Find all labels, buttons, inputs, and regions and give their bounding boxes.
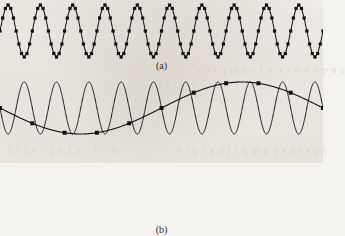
sample-marker — [230, 7, 233, 10]
sample-marker — [163, 16, 166, 19]
sample-marker — [127, 121, 131, 125]
sample-marker — [303, 16, 306, 19]
sample-marker — [171, 7, 174, 10]
sample-marker — [98, 16, 101, 19]
sample-marker — [152, 55, 155, 58]
sample-marker — [125, 42, 128, 45]
sample-marker — [238, 16, 241, 19]
panel-b: (b) — [0, 78, 323, 163]
sample-marker — [270, 16, 273, 19]
sample-marker — [300, 7, 303, 10]
sample-marker — [168, 3, 171, 6]
sample-marker — [249, 55, 252, 58]
sample-marker — [313, 55, 316, 58]
sample-marker — [281, 55, 284, 58]
panel-b-caption: (b) — [0, 224, 323, 235]
panel-a-caption: (a) — [0, 60, 323, 71]
sample-marker — [273, 29, 276, 32]
sample-marker — [44, 16, 47, 19]
sample-marker — [58, 52, 61, 55]
sample-marker — [227, 16, 230, 19]
sample-marker — [109, 16, 112, 19]
sample-marker — [173, 16, 176, 19]
sample-marker — [28, 42, 31, 45]
sample-marker — [294, 7, 297, 10]
sample-marker — [256, 81, 260, 85]
sample-marker — [141, 16, 144, 19]
sample-marker — [187, 52, 190, 55]
sample-marker — [133, 7, 136, 10]
sample-marker — [25, 52, 28, 55]
sample-marker — [90, 52, 93, 55]
sample-marker — [216, 55, 219, 58]
sample-marker — [276, 42, 279, 45]
sample-marker — [103, 3, 106, 6]
sample-marker — [66, 16, 69, 19]
sample-marker — [181, 52, 184, 55]
sample-marker — [12, 16, 15, 19]
sample-marker — [265, 3, 268, 6]
sample-marker — [41, 7, 44, 10]
sample-marker — [106, 7, 109, 10]
sample-marker — [176, 29, 179, 32]
sample-marker — [297, 3, 300, 6]
sample-marker — [68, 7, 71, 10]
sample-marker — [200, 3, 203, 6]
sample-marker — [289, 91, 293, 95]
sample-marker — [311, 52, 314, 55]
sample-marker — [146, 42, 149, 45]
sample-marker — [198, 7, 201, 10]
sample-marker — [192, 29, 195, 32]
sample-marker — [155, 52, 158, 55]
sample-marker — [203, 7, 206, 10]
sample-marker — [246, 52, 249, 55]
sample-marker — [316, 52, 319, 55]
sample-marker — [192, 91, 196, 95]
sample-marker — [225, 29, 228, 32]
sample-marker — [60, 42, 63, 45]
sample-marker — [206, 16, 209, 19]
sample-marker — [289, 29, 292, 32]
sample-marker — [268, 7, 271, 10]
sample-marker — [63, 131, 67, 135]
sample-marker — [184, 55, 187, 58]
sample-marker — [120, 55, 123, 58]
sample-marker — [47, 29, 50, 32]
sample-marker — [138, 7, 141, 10]
sample-marker — [257, 29, 260, 32]
sample-marker — [321, 29, 323, 32]
sample-marker — [160, 106, 164, 110]
sample-marker — [284, 52, 287, 55]
sample-marker — [31, 29, 34, 32]
sample-marker — [79, 29, 82, 32]
sample-marker — [211, 42, 214, 45]
sample-marker — [4, 7, 7, 10]
sample-marker — [6, 3, 9, 6]
sample-marker — [20, 52, 23, 55]
sample-marker — [219, 52, 222, 55]
panel-b-plot — [0, 78, 323, 146]
sample-marker — [39, 3, 42, 6]
sample-marker — [259, 16, 262, 19]
sample-marker — [17, 42, 20, 45]
sample-marker — [165, 7, 168, 10]
sample-marker — [243, 42, 246, 45]
sample-marker — [224, 81, 228, 85]
sample-marker — [144, 29, 147, 32]
sample-marker — [235, 7, 238, 10]
sample-marker — [0, 106, 2, 110]
sample-marker — [93, 42, 96, 45]
sample-marker — [208, 29, 211, 32]
sample-marker — [233, 3, 236, 6]
sample-marker — [128, 29, 131, 32]
sample-marker — [241, 29, 244, 32]
sample-marker — [190, 42, 193, 45]
sample-marker — [63, 29, 66, 32]
panel-a-plot — [0, 0, 323, 62]
sample-marker — [305, 29, 308, 32]
sample-marker — [36, 7, 39, 10]
sample-marker — [222, 42, 225, 45]
sample-marker — [33, 16, 36, 19]
sample-marker — [321, 106, 323, 110]
